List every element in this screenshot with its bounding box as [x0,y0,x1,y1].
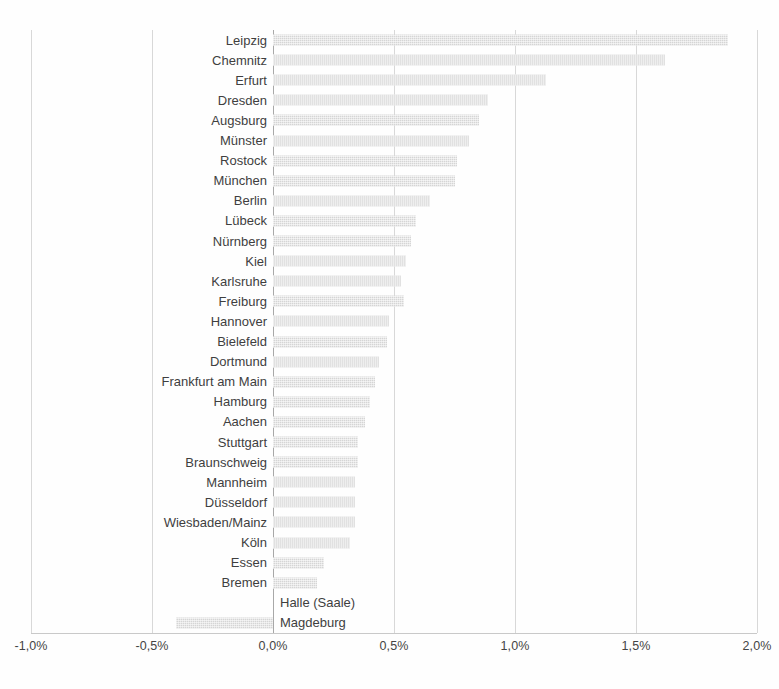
bar [273,175,455,186]
bar-row: Hannover [0,311,779,331]
x-tick-label: 0,5% [380,639,409,653]
bar-row: Erfurt [0,70,779,90]
bar [273,195,430,206]
category-label: Magdeburg [273,613,779,633]
bar [273,437,358,448]
bar-row: Frankfurt am Main [0,372,779,392]
category-label: Nürnberg [0,231,273,251]
bar [273,276,401,287]
bar [273,256,406,267]
bar [273,35,728,46]
bar-row: Münster [0,131,779,151]
bar-row: Dortmund [0,352,779,372]
bar-row: Lübeck [0,211,779,231]
bar [273,497,355,508]
x-tick-label: 0,0% [259,639,288,653]
bar-row: Freiburg [0,291,779,311]
category-label: Braunschweig [0,452,273,472]
bar-row: Dresden [0,90,779,110]
x-tick-label: 1,5% [622,639,651,653]
bar-row: Düsseldorf [0,492,779,512]
category-label: Kiel [0,251,273,271]
bar [273,316,389,327]
bar [273,115,479,126]
bar [273,296,404,307]
bar-row: Bremen [0,573,779,593]
bar-row: Bielefeld [0,332,779,352]
bar [273,155,457,166]
x-tick-label: 2,0% [743,639,772,653]
category-label: Essen [0,553,273,573]
bar-row: Kiel [0,251,779,271]
bar [273,557,324,568]
bar [273,356,379,367]
bar-chart: LeipzigChemnitzErfurtDresdenAugsburgMüns… [0,0,779,689]
bar-row: Mannheim [0,472,779,492]
bar [273,477,355,488]
category-label: Berlin [0,191,273,211]
category-label: Hannover [0,311,273,331]
bar-row: Stuttgart [0,432,779,452]
category-label: Frankfurt am Main [0,372,273,392]
bar [273,457,358,468]
bar-row: Leipzig [0,30,779,50]
bar-rows: LeipzigChemnitzErfurtDresdenAugsburgMüns… [0,30,779,633]
bar-row: Aachen [0,412,779,432]
bar [176,617,273,628]
category-label: Dortmund [0,352,273,372]
x-axis-tick-labels: -1,0%-0,5%0,0%0,5%1,0%1,5%2,0% [0,639,779,663]
category-label: Freiburg [0,291,273,311]
bar [273,416,365,427]
bar [273,336,387,347]
category-label: Wiesbaden/Mainz [0,512,273,532]
category-label: Mannheim [0,472,273,492]
bar [273,135,469,146]
bar [273,215,416,226]
category-label: Rostock [0,151,273,171]
category-label: Karlsruhe [0,271,273,291]
bar-row: Nürnberg [0,231,779,251]
bar-row: Halle (Saale) [0,593,779,613]
bar-row: Essen [0,553,779,573]
x-tick-label: 1,0% [501,639,530,653]
category-label: Halle (Saale) [273,593,779,613]
bar-row: München [0,171,779,191]
category-label: Düsseldorf [0,492,273,512]
category-label: Leipzig [0,30,273,50]
x-tick-label: -1,0% [14,639,47,653]
category-label: Dresden [0,90,273,110]
x-tick-label: -0,5% [135,639,168,653]
bar [273,517,355,528]
bar [273,577,317,588]
bar [273,75,546,86]
bar-row: Magdeburg [0,613,779,633]
category-label: Bremen [0,573,273,593]
category-label: München [0,171,273,191]
category-label: Augsburg [0,110,273,130]
category-label: Aachen [0,412,273,432]
bar-row: Köln [0,533,779,553]
category-label: Hamburg [0,392,273,412]
bar [273,537,350,548]
category-label: Lübeck [0,211,273,231]
bar [273,236,411,247]
bar [273,376,375,387]
bar-row: Chemnitz [0,50,779,70]
category-label: Köln [0,533,273,553]
bar-row: Braunschweig [0,452,779,472]
bar-row: Berlin [0,191,779,211]
category-label: Chemnitz [0,50,273,70]
x-axis-line [31,633,757,634]
bar-row: Hamburg [0,392,779,412]
bar-row: Wiesbaden/Mainz [0,512,779,532]
bar-row: Rostock [0,151,779,171]
category-label: Erfurt [0,70,273,90]
bar [273,55,665,66]
bar [273,95,488,106]
bar-row: Karlsruhe [0,271,779,291]
category-label: Münster [0,131,273,151]
category-label: Stuttgart [0,432,273,452]
category-label: Bielefeld [0,332,273,352]
bar [273,396,370,407]
bar-row: Augsburg [0,110,779,130]
